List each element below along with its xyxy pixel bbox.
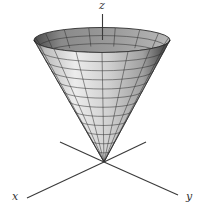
x-axis-positive [27, 162, 104, 198]
cone-diagram: z x y [0, 0, 204, 210]
y-axis-positive [104, 162, 178, 195]
x-axis-label: x [12, 190, 19, 203]
axes-front [27, 162, 178, 198]
y-axis-label: y [185, 190, 193, 203]
z-axis-label: z [98, 0, 105, 12]
